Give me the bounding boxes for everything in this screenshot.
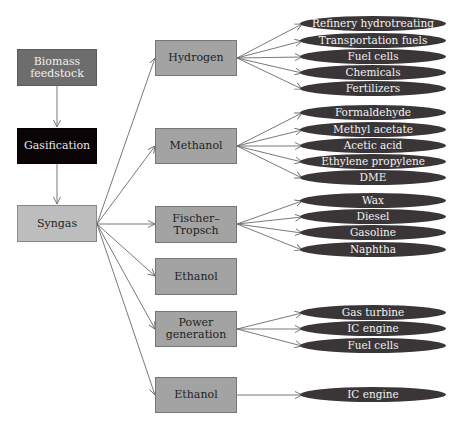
product-label: Acetic acid bbox=[344, 139, 403, 151]
arrow-hydrogen-to-product-4 bbox=[237, 58, 302, 89]
arrow-methanol-to-product-0 bbox=[237, 113, 302, 146]
product-label: Diesel bbox=[357, 210, 390, 222]
ethanol-box-2: Ethanol bbox=[155, 377, 237, 413]
arrow-fischer-tropsch-to-product-2 bbox=[237, 224, 302, 233]
arrow-hydrogen-to-product-1 bbox=[237, 41, 302, 58]
product-label: Gas turbine bbox=[342, 306, 404, 318]
product-label: Gasoline bbox=[350, 226, 396, 238]
biomass-feedstock-box: Biomassfeedstock bbox=[17, 49, 97, 86]
hydrogen-label: Hydrogen bbox=[168, 52, 223, 64]
product-refinery-hydrotreating: Refinery hydrotreating bbox=[300, 16, 446, 31]
product-label: Chemicals bbox=[345, 66, 400, 78]
product-label: Formaldehyde bbox=[335, 106, 411, 118]
product-label: Fuel cells bbox=[347, 50, 398, 62]
gasification-label: Gasification bbox=[24, 140, 90, 152]
product-label: Wax bbox=[362, 194, 384, 206]
methanol-box: Methanol bbox=[155, 128, 237, 164]
product-ethylene-propylene: Ethylene propylene bbox=[300, 154, 446, 169]
product-gasoline: Gasoline bbox=[300, 225, 446, 240]
arrow-power-generation-to-product-2 bbox=[237, 329, 302, 346]
product-formaldehyde: Formaldehyde bbox=[300, 105, 446, 120]
product-diesel: Diesel bbox=[300, 209, 446, 224]
methanol-label: Methanol bbox=[169, 140, 222, 152]
fischer-tropsch-label-line2: Tropsch bbox=[172, 225, 219, 237]
arrow-methanol-to-product-3 bbox=[237, 146, 302, 162]
biomass-label-line2: feedstock bbox=[30, 68, 84, 80]
gasification-box: Gasification bbox=[17, 128, 97, 164]
product-label: Refinery hydrotreating bbox=[312, 17, 434, 29]
arrow-hydrogen-to-product-2 bbox=[237, 57, 302, 58]
arrow-power-generation-to-product-0 bbox=[237, 313, 302, 329]
arrow-syngas-to-hydrogen bbox=[97, 58, 155, 224]
product-label: Transportation fuels bbox=[319, 34, 428, 46]
arrow-syngas-to-power-generation bbox=[97, 224, 155, 329]
product-fertilizers: Fertilizers bbox=[300, 81, 446, 96]
fischer-tropsch-box: Fischer–Tropsch bbox=[155, 206, 237, 243]
arrow-hydrogen-to-product-0 bbox=[237, 24, 302, 58]
ethanol-label-2: Ethanol bbox=[174, 389, 217, 401]
product-label: Naphtha bbox=[350, 243, 396, 255]
fischer-tropsch-label-line1: Fischer– bbox=[172, 213, 219, 225]
biomass-label-line1: Biomass bbox=[30, 56, 84, 68]
product-wax: Wax bbox=[300, 193, 446, 208]
power-generation-label-line2: generation bbox=[166, 329, 227, 341]
power-generation-box: Powergeneration bbox=[155, 311, 237, 347]
product-fuel-cells: Fuel cells bbox=[300, 49, 446, 64]
product-chemicals: Chemicals bbox=[300, 65, 446, 80]
arrow-hydrogen-to-product-3 bbox=[237, 58, 302, 73]
arrow-fischer-tropsch-to-product-3 bbox=[237, 224, 302, 250]
product-label: IC engine bbox=[347, 322, 399, 334]
product-transportation-fuels: Transportation fuels bbox=[300, 33, 446, 48]
product-dme: DME bbox=[300, 170, 446, 185]
product-label: Methyl acetate bbox=[333, 123, 413, 135]
product-label: Ethylene propylene bbox=[321, 155, 425, 167]
product-label: Fuel cells bbox=[347, 339, 398, 351]
product-fuel-cells-power: Fuel cells bbox=[300, 338, 446, 353]
product-ic-engine-ethanol: IC engine bbox=[300, 387, 446, 402]
product-methyl-acetate: Methyl acetate bbox=[300, 122, 446, 137]
ethanol-box-1: Ethanol bbox=[155, 258, 237, 295]
syngas-box: Syngas bbox=[17, 205, 97, 242]
syngas-pathway-diagram: Biomassfeedstock Gasification Syngas Hyd… bbox=[0, 0, 463, 426]
ethanol-label-1: Ethanol bbox=[174, 271, 217, 283]
product-label: DME bbox=[360, 171, 387, 183]
product-ic-engine: IC engine bbox=[300, 321, 446, 336]
arrow-syngas-to-methanol bbox=[97, 146, 155, 224]
product-label: Fertilizers bbox=[346, 82, 400, 94]
syngas-label: Syngas bbox=[37, 218, 77, 230]
product-gas-turbine: Gas turbine bbox=[300, 305, 446, 320]
arrow-methanol-to-product-4 bbox=[237, 146, 302, 178]
product-acetic-acid: Acetic acid bbox=[300, 138, 446, 153]
product-label: IC engine bbox=[347, 388, 399, 400]
product-naphtha: Naphtha bbox=[300, 242, 446, 257]
arrow-methanol-to-product-1 bbox=[237, 130, 302, 146]
hydrogen-box: Hydrogen bbox=[155, 40, 237, 76]
